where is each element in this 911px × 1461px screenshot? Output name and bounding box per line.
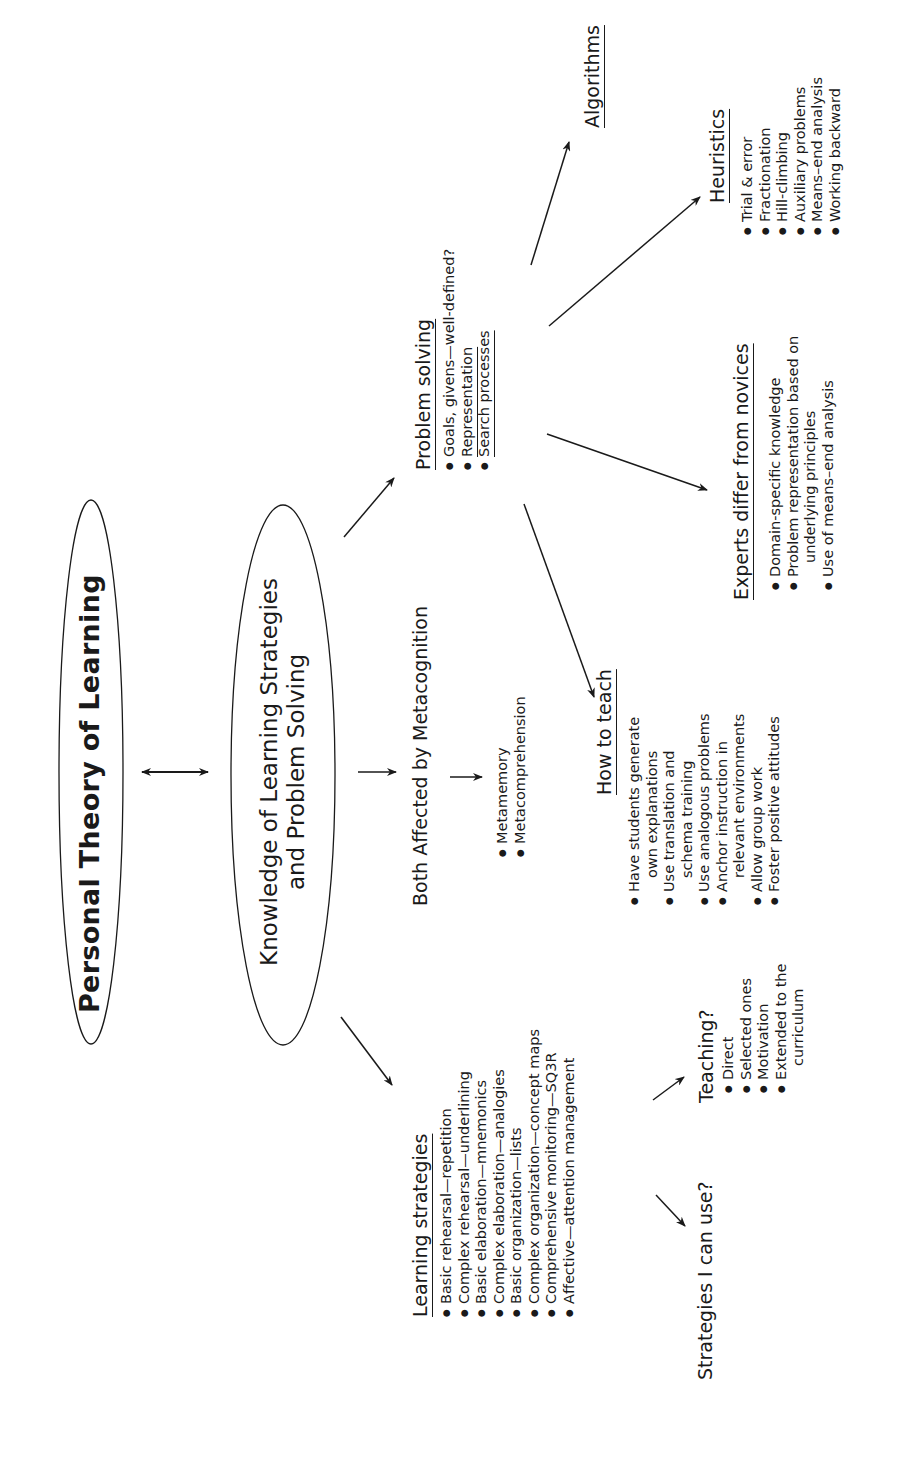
heuristics-block: Heuristics Trial & error Fractionation H… bbox=[705, 77, 844, 235]
arrow-to-teaching bbox=[653, 1077, 684, 1100]
metacognition-list: Metamemory Metacomprehension bbox=[494, 696, 529, 857]
list-item: Complex organization—concept maps bbox=[526, 1029, 544, 1317]
arrow-to-how-to-teach bbox=[524, 504, 594, 697]
representation-link: Representation bbox=[459, 347, 475, 457]
list-item: Trial & error bbox=[739, 77, 757, 235]
teaching-label: Teaching? bbox=[694, 964, 718, 1103]
strategies-i-can-use-text: Strategies I can use? bbox=[694, 1181, 716, 1380]
list-item: Hill-climbing bbox=[774, 77, 792, 235]
list-item: Problem representation based onunderlyin… bbox=[785, 336, 820, 590]
arrow-to-problem-solving bbox=[344, 478, 394, 537]
list-item-text: Extended to the bbox=[773, 964, 789, 1080]
list-item-continuation: schema training bbox=[679, 669, 697, 892]
strategies-i-can-use-label: Strategies I can use? bbox=[693, 1181, 717, 1380]
list-item: Use translation andschema training bbox=[661, 669, 696, 905]
metacognition-label-text: Both Affected by Metacognition bbox=[409, 606, 431, 906]
diagram-title: Personal Theory of Learning bbox=[74, 574, 105, 1013]
list-item: Anchor instruction inrelevant environmen… bbox=[714, 669, 749, 905]
how-to-teach-block: How to teach Have students generateown e… bbox=[592, 669, 784, 905]
list-item-text: Domain-specific knowledge bbox=[767, 378, 783, 578]
list-item: Affective—attention management bbox=[561, 1029, 579, 1317]
arrow-to-experts bbox=[547, 434, 707, 490]
list-item: Means–end analysis bbox=[809, 77, 827, 235]
arrow-to-algorithms bbox=[531, 142, 569, 265]
list-item-text: Foster positive attitudes bbox=[766, 716, 782, 892]
list-item: Fractionation bbox=[757, 77, 775, 235]
diagram-title-text: Personal Theory of Learning bbox=[74, 574, 105, 1013]
list-item-continuation: relevant environments bbox=[731, 669, 749, 892]
list-item: Foster positive attitudes bbox=[766, 669, 784, 905]
search-processes-link: Search processes bbox=[476, 330, 492, 457]
center-node: Knowledge of Learning Strategies and Pro… bbox=[256, 522, 310, 1022]
experts-block: Experts differ from novices Domain-speci… bbox=[729, 336, 837, 600]
list-item: Selected ones bbox=[738, 964, 756, 1093]
list-item: Have students generateown explanations bbox=[626, 669, 661, 905]
arrow-to-strategies-i-can-use bbox=[656, 1195, 685, 1226]
heuristics-heading: Heuristics bbox=[705, 77, 729, 203]
list-item-text: Use of means–end analysis bbox=[820, 380, 836, 577]
list-item: Direct bbox=[720, 964, 738, 1093]
list-item: Extended to thecurriculum bbox=[773, 964, 808, 1093]
list-item-continuation: own explanations bbox=[644, 669, 662, 892]
how-to-teach-heading: How to teach bbox=[592, 669, 616, 795]
list-item: Use analogous problems bbox=[696, 669, 714, 905]
list-item-text: Use analogous problems bbox=[696, 713, 712, 892]
list-item-text: Use translation and bbox=[661, 750, 677, 892]
metacognition-label: Both Affected by Metacognition bbox=[408, 606, 432, 906]
problem-solving-block: Problem solving Goals, givens—well-defin… bbox=[411, 249, 494, 470]
learning-strategies-heading: Learning strategies bbox=[408, 1029, 432, 1317]
list-item: Basic rehearsal—repetition bbox=[438, 1029, 456, 1317]
list-item: Domain-specific knowledge bbox=[767, 336, 785, 590]
list-item: Representation bbox=[459, 249, 477, 470]
list-item-continuation: curriculum bbox=[790, 964, 808, 1080]
list-item: Complex elaboration—analogies bbox=[491, 1029, 509, 1317]
list-item-text: Allow group work bbox=[749, 767, 765, 892]
list-item: Motivation bbox=[755, 964, 773, 1093]
list-item-continuation: underlying principles bbox=[802, 336, 820, 577]
list-item: Metamemory bbox=[494, 696, 512, 857]
arrow-to-heuristics bbox=[549, 197, 700, 326]
list-item: Search processes bbox=[476, 249, 494, 470]
list-item: Allow group work bbox=[749, 669, 767, 905]
list-item-text: Have students generate bbox=[626, 717, 642, 892]
list-item: Use of means–end analysis bbox=[820, 336, 838, 590]
center-node-line2: and Problem Solving bbox=[283, 522, 310, 1022]
list-item: Working backward bbox=[827, 77, 845, 235]
algorithms-heading: Algorithms bbox=[580, 25, 604, 128]
experts-heading: Experts differ from novices bbox=[729, 336, 753, 600]
list-item: Metacomprehension bbox=[512, 696, 530, 857]
learning-strategies-block: Learning strategies Basic rehearsal—repe… bbox=[408, 1029, 578, 1317]
algorithms-heading-text: Algorithms bbox=[581, 25, 603, 128]
center-node-line1: Knowledge of Learning Strategies bbox=[256, 522, 283, 1022]
list-item: Basic elaboration—mnemonics bbox=[473, 1029, 491, 1317]
list-item-text: Problem representation based on bbox=[785, 336, 801, 577]
list-item: Basic organization—lists bbox=[508, 1029, 526, 1317]
list-item: Complex rehearsal—underlining bbox=[456, 1029, 474, 1317]
list-item: Auxiliary problems bbox=[792, 77, 810, 235]
list-item: Comprehensive monitoring—SQ3R bbox=[543, 1029, 561, 1317]
list-item-text: Anchor instruction in bbox=[714, 741, 730, 892]
teaching-block: Teaching? Direct Selected ones Motivatio… bbox=[694, 964, 808, 1103]
arrow-to-learning-strategies bbox=[341, 1017, 392, 1085]
list-item: Goals, givens—well-defined? bbox=[441, 249, 459, 470]
problem-solving-heading: Problem solving bbox=[411, 249, 435, 470]
